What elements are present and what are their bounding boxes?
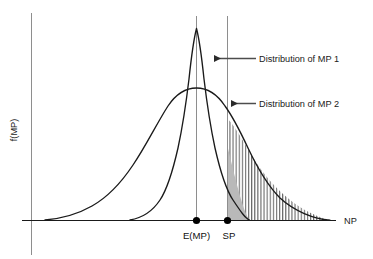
chart-figure: Distribution of MP 1 Distribution of MP … — [0, 0, 373, 259]
x-tick-label-emp: E(MP) — [183, 230, 210, 241]
y-axis-label: f(MP) — [9, 119, 19, 141]
emp-marker-dot — [193, 217, 200, 224]
annotation-label-mp1: Distribution of MP 1 — [259, 54, 339, 64]
distribution-chart-svg: Distribution of MP 1 Distribution of MP … — [0, 0, 373, 259]
x-tick-label-sp: SP — [223, 230, 236, 241]
x-axis-label: NP — [344, 216, 357, 226]
sp-marker-dot — [224, 217, 231, 224]
annotation-label-mp2: Distribution of MP 2 — [259, 99, 339, 109]
